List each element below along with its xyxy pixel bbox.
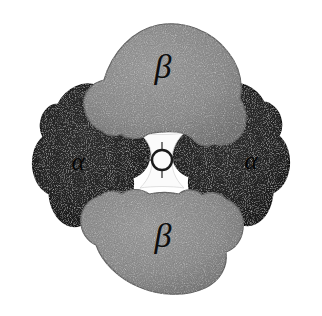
hemoglobin-figure: β α α β <box>0 0 322 316</box>
hemoglobin-tetramer-diagram: β α α β <box>0 0 322 316</box>
